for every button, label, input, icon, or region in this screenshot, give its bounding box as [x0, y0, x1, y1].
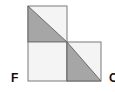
bottom-right-square — [67, 42, 101, 81]
top-square — [28, 6, 67, 42]
diagram-figure: F C — [0, 0, 115, 92]
bottom-left-square — [28, 42, 67, 81]
vertex-label-left: F — [11, 72, 18, 84]
vertex-label-right: C — [109, 72, 115, 84]
